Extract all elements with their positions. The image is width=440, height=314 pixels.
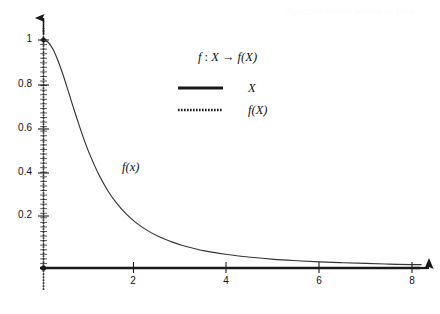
chart-figure: faint scanned bleed-through (0, 0, 440, 314)
legend-label-x: X (248, 81, 256, 96)
x-tick-label-4: 4 (216, 275, 236, 286)
legend-title-domain: X (211, 50, 219, 64)
curve-line (44, 40, 422, 265)
legend-title-colon: : (201, 50, 211, 64)
legend-label-fx: f(X) (248, 103, 267, 118)
y-tick-label-0-2: 0.2 (4, 209, 32, 220)
x-tick-label-2: 2 (123, 275, 143, 286)
y-tick-label-1: 1 (4, 33, 32, 44)
legend-keys (178, 88, 223, 110)
legend-title: f : X → f(X) (198, 50, 257, 65)
data-series-fx (44, 40, 422, 265)
y-tick-label-0-4: 0.4 (4, 166, 32, 177)
x-tick-label-6: 6 (309, 275, 329, 286)
y-tick-label-0-8: 0.8 (4, 78, 32, 89)
curve-annotation-fx: f(x) (122, 160, 139, 175)
legend-title-codomain: f(X) (238, 50, 257, 64)
y-tick-label-0-6: 0.6 (4, 122, 32, 133)
x-tick-label-8: 8 (402, 275, 422, 286)
legend-title-arrow-icon: → (219, 50, 238, 64)
plot-area (0, 0, 440, 314)
